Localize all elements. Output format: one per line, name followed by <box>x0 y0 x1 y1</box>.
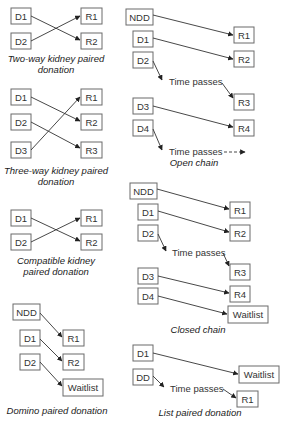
recipient-label: R2 <box>85 237 97 248</box>
donor-label: D4 <box>137 123 149 134</box>
donor-label: D1 <box>24 333 36 344</box>
recipient-label: R3 <box>85 145 97 156</box>
caption: Domino paired donation <box>7 405 108 416</box>
caption: donation <box>38 64 74 75</box>
two-way-panel: D1 D2 R1 R2 Two-way kidney paired donati… <box>8 8 105 75</box>
open-chain-panel: NDD D1 D2 D3 D4 R1 R2 R3 R4 Time passes … <box>126 9 254 168</box>
arrow-d1-to-r2 <box>153 38 233 59</box>
compatible-panel: D1 D2 R1 R2 Compatible kidney paired don… <box>11 210 102 277</box>
arrow-time-to-r3 <box>222 83 233 98</box>
donor-label: D2 <box>24 357 36 368</box>
arrow-dd-to-time <box>153 376 164 387</box>
arrow-time-to-r1 <box>223 389 236 398</box>
recipient-label: R3 <box>234 267 246 278</box>
recipient-label: R1 <box>241 394 253 405</box>
recipient-label: R1 <box>234 205 246 216</box>
donor-label: D4 <box>142 291 154 302</box>
donor-label: D3 <box>142 271 154 282</box>
caption: paired donation <box>22 266 89 277</box>
recipient-label: R2 <box>85 36 97 47</box>
arrow-d1-to-r2 <box>158 211 229 232</box>
recipient-label: R1 <box>85 92 97 103</box>
donor-label: D2 <box>137 55 149 66</box>
waitlist-label: Waitlist <box>233 309 264 320</box>
donor-label: NDD <box>16 307 37 318</box>
recipient-label: R2 <box>67 357 79 368</box>
donor-label: NDD <box>133 186 154 197</box>
caption: Closed chain <box>171 324 226 335</box>
caption: donation <box>38 176 74 187</box>
time-passes-label: Time passes <box>169 76 223 87</box>
three-way-panel: D1 D2 D3 R1 R2 R3 Three-way kidney paire… <box>4 89 109 187</box>
arrow-d2-to-waitlist <box>40 362 62 386</box>
arrow-d3-to-r1 <box>31 97 80 150</box>
donor-label: D1 <box>15 11 27 22</box>
arrow-d2-to-r3 <box>31 122 80 148</box>
recipient-label: R2 <box>238 54 250 65</box>
donor-label: D2 <box>142 228 154 239</box>
arrow-d1-to-r2 <box>40 339 62 361</box>
list-paired-panel: D1 DD Waitlist R1 Time passes List paire… <box>133 345 279 418</box>
recipient-label: R3 <box>238 97 250 108</box>
domino-panel: NDD D1 D2 R1 R2 Waitlist Domino paired d… <box>7 304 108 416</box>
caption: Three-way kidney paired <box>4 165 109 176</box>
arrow-d1-to-waitlist <box>153 353 238 374</box>
arrow-d3-to-r4 <box>153 106 233 127</box>
time-passes-label: Time passes <box>169 146 223 157</box>
recipient-label: R1 <box>238 30 250 41</box>
donor-label: D1 <box>142 207 154 218</box>
kidney-donation-diagram: D1 D2 R1 R2 Two-way kidney paired donati… <box>0 0 285 427</box>
recipient-label: R1 <box>85 11 97 22</box>
arrow-d2-to-time <box>153 61 162 80</box>
donor-label: D3 <box>15 145 27 156</box>
caption: List paired donation <box>159 407 242 418</box>
caption: Compatible kidney <box>17 255 96 266</box>
arrow-d3-to-r4 <box>158 276 229 293</box>
donor-label: D1 <box>137 34 149 45</box>
arrow-d2-to-time <box>158 234 166 251</box>
donor-label: D1 <box>15 213 27 224</box>
arrow-time-to-r3 <box>223 253 229 266</box>
arrow-ndd-to-r1 <box>40 313 62 337</box>
donor-label: D2 <box>15 237 27 248</box>
arrow-d4-to-time <box>153 129 162 150</box>
waitlist-label: Waitlist <box>244 369 275 380</box>
recipient-label: R1 <box>85 213 97 224</box>
arrow-d4-to-waitlist <box>158 296 227 314</box>
time-passes-label: Time passes <box>172 247 226 258</box>
donor-label: D3 <box>137 101 149 112</box>
arrow-d1-to-r2 <box>31 97 80 121</box>
closed-chain-panel: NDD D1 D2 D3 D4 R1 R2 R3 R4 Waitlist Tim… <box>130 183 268 335</box>
donor-label: DD <box>136 372 150 383</box>
arrow-ndd-to-r1 <box>157 189 229 209</box>
caption: Open chain <box>170 157 219 168</box>
donor-label: D2 <box>15 36 27 47</box>
waitlist-label: Waitlist <box>68 382 99 393</box>
donor-label: NDD <box>129 12 150 23</box>
recipient-label: R2 <box>234 228 246 239</box>
recipient-label: R2 <box>85 117 97 128</box>
donor-label: D1 <box>15 92 27 103</box>
caption: Two-way kidney paired <box>8 53 105 64</box>
donor-label: D1 <box>137 348 149 359</box>
recipient-label: R1 <box>67 333 79 344</box>
recipient-label: R4 <box>238 123 250 134</box>
donor-label: D2 <box>15 117 27 128</box>
recipient-label: R4 <box>234 289 246 300</box>
arrow-ndd-to-r1 <box>153 15 233 35</box>
time-passes-label: Time passes <box>170 383 224 394</box>
